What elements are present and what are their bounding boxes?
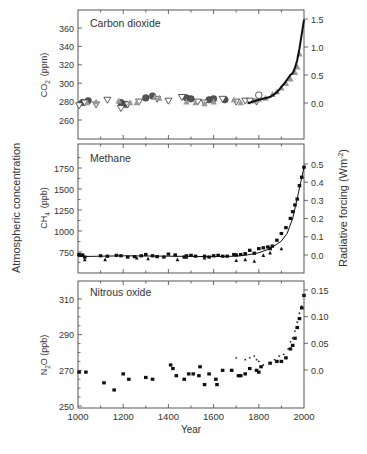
right-axis-title: Radiative forcing (Wm-2) (337, 149, 349, 267)
y2-tick-label: 0.0 (311, 99, 324, 109)
data-point (117, 106, 124, 112)
data-point (290, 341, 292, 343)
y2-tick-label: 1.0 (311, 43, 324, 53)
data-point (77, 253, 81, 256)
y2-tick-label: 0.5 (311, 71, 324, 81)
y2-tick-label: 0.10 (311, 312, 329, 322)
x-axis-title: Year (181, 424, 202, 435)
data-point (262, 246, 266, 249)
data-point (299, 312, 301, 314)
y2-tick-label: 0.1 (311, 232, 324, 242)
svg-text:N2O (ppb): N2O (ppb) (39, 335, 51, 376)
data-point (144, 376, 148, 379)
figure: 2602803003203403600.00.51.01.57501000125… (0, 0, 367, 454)
y2-tick-label: 1.5 (311, 15, 324, 25)
x-tick-label: 1600 (203, 411, 224, 422)
y2-tick-label: 0.2 (311, 214, 324, 224)
data-point (146, 257, 150, 261)
panel-frames: 2602803003203403600.00.51.01.57501000125… (54, 10, 329, 422)
data-point (243, 372, 247, 375)
data-point (257, 247, 261, 250)
data-point (291, 344, 295, 347)
y-tick-label: 320 (59, 60, 74, 70)
y-tick-label: 1250 (54, 206, 74, 216)
data-point (301, 305, 303, 307)
svg-text:CO2(ppm): CO2(ppm) (39, 53, 51, 98)
y-tick-label: 270 (59, 366, 74, 376)
data-point (298, 317, 302, 320)
data-point (230, 369, 234, 372)
y2-tick-label: 0.0 (311, 251, 324, 261)
x-tick-label: 1200 (113, 411, 134, 422)
x-tick-label: 1800 (248, 411, 269, 422)
data-point (215, 383, 219, 386)
data-point (292, 337, 294, 339)
ylabel-n2o: N2O (ppb) (39, 335, 51, 376)
data-point (289, 347, 293, 350)
data-point (248, 249, 252, 252)
y-tick-label: 260 (59, 116, 74, 126)
ylabel-co2: CO2(ppm) (39, 53, 51, 98)
data-point (239, 374, 243, 377)
data-point (143, 95, 150, 102)
data-point (112, 388, 116, 391)
data-point (268, 251, 272, 255)
data-point (262, 253, 266, 257)
data-point (104, 97, 111, 103)
data-point (274, 359, 276, 361)
y2-tick-label: 0.4 (311, 178, 324, 188)
data-point (280, 232, 284, 235)
y-tick-label: 1000 (54, 227, 74, 237)
plots (76, 20, 306, 392)
svg-text:CH4(ppb): CH4(ppb) (39, 187, 51, 229)
y-tick-label: 300 (59, 79, 74, 89)
data-point (171, 367, 175, 370)
data-point (115, 254, 119, 257)
y-tick-label: 280 (59, 97, 74, 107)
data-point (275, 360, 279, 363)
data-point (221, 369, 225, 372)
panel-title-co2: Carbon dioxide (90, 17, 161, 29)
data-point (165, 98, 172, 104)
data-point (248, 367, 252, 370)
data-point (278, 355, 280, 357)
panel-co2: 2602803003203403600.00.51.01.5 (59, 10, 324, 139)
data-point (262, 364, 264, 366)
y2-tick-label: 0.3 (311, 196, 324, 206)
data-point (252, 259, 256, 263)
data-point (77, 371, 81, 374)
panel-title-ch4: Methane (90, 152, 131, 164)
y-tick-label: 360 (59, 24, 74, 34)
data-point (207, 372, 211, 375)
data-point (289, 217, 293, 220)
fit-line (78, 167, 304, 256)
data-point (244, 359, 246, 361)
data-point (188, 96, 195, 103)
data-point (176, 258, 180, 262)
data-point (198, 365, 202, 368)
data-point (187, 372, 191, 375)
data-point (102, 381, 106, 384)
data-point (127, 378, 131, 381)
data-point (151, 378, 155, 381)
svg-text:Radiative forcing (Wm-2): Radiative forcing (Wm-2) (337, 149, 349, 267)
data-point (275, 239, 279, 242)
data-point (296, 321, 298, 323)
y2-tick-label: 0.05 (311, 339, 329, 349)
panel-title-n2o: Nitrous oxide (90, 286, 151, 298)
data-point (84, 371, 88, 374)
y2-tick-label: 0.15 (311, 286, 329, 296)
data-point (249, 357, 251, 359)
data-point (256, 359, 258, 361)
x-tick-label: 1000 (67, 411, 88, 422)
y-tick-label: 250 (59, 402, 74, 412)
data-point (294, 330, 296, 332)
data-point (167, 253, 171, 256)
data-point (280, 247, 284, 251)
data-point (234, 258, 238, 262)
data-point (175, 374, 179, 377)
data-point (155, 255, 159, 258)
panel-n2o: 2502702903100.00.050.100.15 (59, 281, 329, 412)
data-point (295, 326, 299, 329)
data-point (235, 357, 237, 359)
